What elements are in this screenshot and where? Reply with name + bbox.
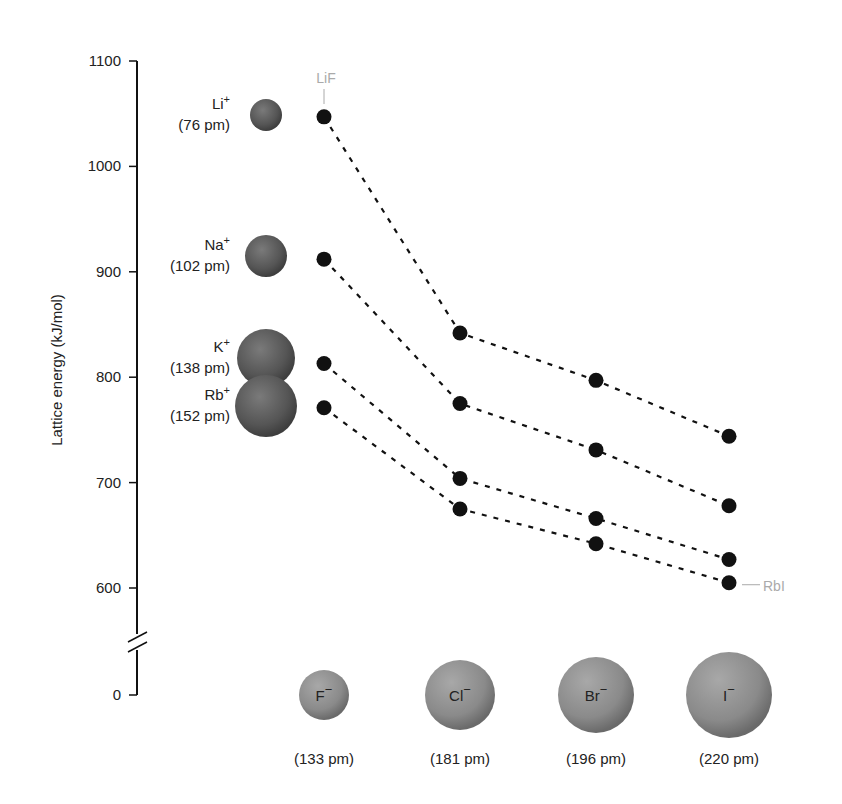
cation-legend: Li+(76 pm)Na+(102 pm)K+(138 pm)Rb+(152 p… [170, 93, 297, 437]
data-point-k-cl [453, 471, 468, 486]
data-point-rb-i [722, 575, 737, 590]
cation-symbol: Rb+ [204, 384, 230, 403]
y-tick-label: 800 [96, 368, 121, 385]
data-point-rb-cl [453, 501, 468, 516]
y-axis: 060070080090010001100Lattice energy (kJ/… [48, 52, 147, 703]
cation-symbol: Na+ [204, 234, 230, 253]
cation-sphere-rb [235, 375, 297, 437]
series-line-k [324, 363, 729, 559]
y-tick-label: 1000 [88, 157, 121, 174]
data-point-k-f [317, 356, 332, 371]
cation-symbol: Li+ [212, 93, 230, 112]
anion-radius: (220 pm) [699, 750, 759, 767]
data-point-na-f [317, 252, 332, 267]
cation-radius: (138 pm) [170, 359, 230, 376]
cation-symbol: K+ [214, 336, 230, 355]
anion-radius: (133 pm) [294, 750, 354, 767]
data-point-rb-f [317, 400, 332, 415]
y-tick-label: 900 [96, 263, 121, 280]
cation-radius: (152 pm) [170, 407, 230, 424]
anion-radius: (181 pm) [430, 750, 490, 767]
data-point-na-i [722, 498, 737, 513]
data-point-k-i [722, 552, 737, 567]
data-point-k-br [589, 511, 604, 526]
series-lines [317, 109, 737, 590]
annotations: LiFRbI [316, 70, 785, 594]
data-point-rb-br [589, 536, 604, 551]
cation-sphere-na [245, 235, 287, 277]
y-tick-label: 700 [96, 474, 121, 491]
series-line-rb [324, 408, 729, 583]
cation-radius: (76 pm) [178, 116, 230, 133]
series-line-na [324, 259, 729, 506]
y-tick-label: 0 [113, 686, 121, 703]
data-point-li-i [722, 429, 737, 444]
data-point-na-br [589, 442, 604, 457]
cation-sphere-li [250, 99, 282, 131]
lattice-energy-chart: 060070080090010001100Lattice energy (kJ/… [0, 0, 842, 804]
anion-legend: F−(133 pm)Cl−(181 pm)Br−(196 pm)I−(220 p… [294, 652, 772, 767]
callout-rbi: RbI [763, 578, 785, 594]
callout-lif: LiF [316, 70, 335, 86]
data-point-li-br [589, 373, 604, 388]
series-line-li [324, 117, 729, 436]
y-tick-label: 1100 [89, 52, 121, 69]
data-point-li-f [317, 109, 332, 124]
anion-radius: (196 pm) [566, 750, 626, 767]
data-point-na-cl [453, 396, 468, 411]
y-tick-label: 600 [96, 579, 121, 596]
cation-radius: (102 pm) [170, 257, 230, 274]
data-point-li-cl [453, 325, 468, 340]
y-axis-title: Lattice energy (kJ/mol) [48, 294, 65, 446]
